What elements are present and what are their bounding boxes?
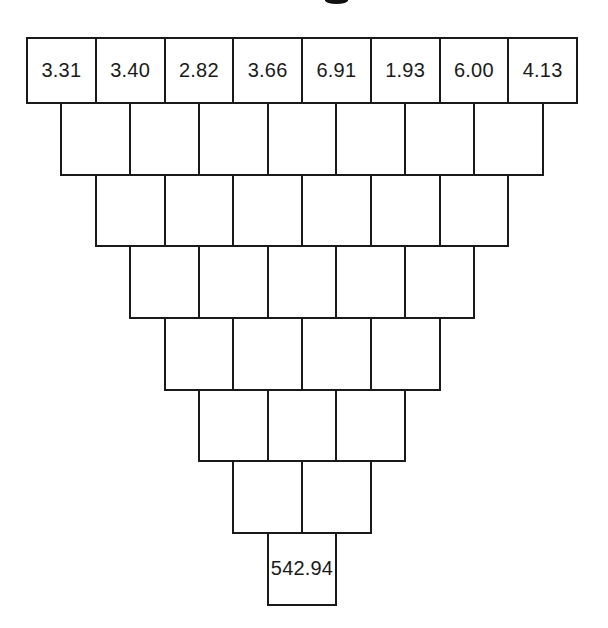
pyramid-cell: 3.66 xyxy=(232,37,303,104)
pyramid-row-6 xyxy=(0,389,604,463)
pyramid-cell: 2.82 xyxy=(164,37,235,104)
pyramid-cell: 6.91 xyxy=(301,37,372,104)
pyramid-cell xyxy=(267,245,338,319)
pyramid-cell xyxy=(164,174,235,248)
pyramid-cell xyxy=(198,245,269,319)
pyramid-cell: 1.93 xyxy=(370,37,441,104)
pyramid-cell xyxy=(335,245,406,319)
pyramid-cell: 4.13 xyxy=(507,37,578,104)
cell-value: 3.40 xyxy=(110,59,150,82)
number-pyramid: 3.313.402.823.666.911.936.004.13542.94 xyxy=(0,37,604,606)
pyramid-cell xyxy=(198,389,269,463)
cell-value: 2.82 xyxy=(179,59,219,82)
pyramid-cell xyxy=(95,174,166,248)
pyramid-cell xyxy=(129,245,200,319)
pyramid-cell xyxy=(267,102,338,176)
cell-value: 4.13 xyxy=(523,59,563,82)
cell-value: 3.31 xyxy=(42,59,82,82)
pyramid-cell xyxy=(198,102,269,176)
pyramid-cell xyxy=(232,317,303,391)
pyramid-cell xyxy=(335,102,406,176)
pyramid-cell xyxy=(301,174,372,248)
pyramid-row-1: 3.313.402.823.666.911.936.004.13 xyxy=(0,37,604,104)
pyramid-row-5 xyxy=(0,317,604,391)
pyramid-row-7 xyxy=(0,460,604,534)
pyramid-cell xyxy=(164,317,235,391)
pyramid-cell: 542.94 xyxy=(267,532,338,606)
clipped-title-descender-fragment xyxy=(325,0,348,4)
cell-value: 6.00 xyxy=(454,59,494,82)
pyramid-cell xyxy=(439,174,510,248)
pyramid-cell: 3.31 xyxy=(26,37,97,104)
pyramid-cell: 6.00 xyxy=(439,37,510,104)
pyramid-cell xyxy=(60,102,131,176)
pyramid-cell xyxy=(232,460,303,534)
pyramid-cell xyxy=(335,389,406,463)
pyramid-row-4 xyxy=(0,245,604,319)
pyramid-cell xyxy=(370,317,441,391)
pyramid-cell xyxy=(473,102,544,176)
pyramid-cell xyxy=(404,245,475,319)
pyramid-row-3 xyxy=(0,174,604,248)
pyramid-cell: 3.40 xyxy=(95,37,166,104)
cell-value: 542.94 xyxy=(271,557,333,580)
pyramid-row-8: 542.94 xyxy=(0,532,604,606)
pyramid-cell xyxy=(301,460,372,534)
pyramid-cell xyxy=(267,389,338,463)
cell-value: 6.91 xyxy=(317,59,357,82)
cell-value: 3.66 xyxy=(248,59,288,82)
cell-value: 1.93 xyxy=(385,59,425,82)
pyramid-cell xyxy=(404,102,475,176)
pyramid-cell xyxy=(232,174,303,248)
pyramid-cell xyxy=(301,317,372,391)
pyramid-cell xyxy=(370,174,441,248)
pyramid-cell xyxy=(129,102,200,176)
pyramid-row-2 xyxy=(0,102,604,176)
